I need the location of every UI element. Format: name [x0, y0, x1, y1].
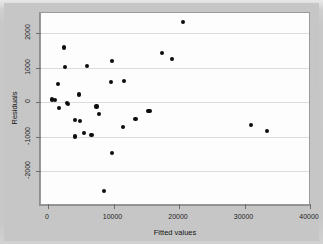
x-tick-mark: [310, 204, 311, 209]
data-point: [109, 80, 113, 84]
data-point: [102, 189, 106, 193]
data-point: [147, 109, 151, 113]
data-point: [89, 133, 93, 137]
data-point: [249, 123, 253, 127]
x-tick-mark: [48, 204, 49, 209]
data-point: [62, 45, 66, 49]
y-tick-mark: [36, 171, 41, 172]
data-point: [265, 129, 269, 133]
data-point: [82, 131, 86, 135]
data-point: [85, 64, 89, 68]
data-point: [66, 102, 70, 106]
y-tick-mark: [36, 68, 41, 69]
data-point: [94, 104, 98, 108]
x-axis-title: Fitted values: [154, 228, 197, 237]
gridline-y: [41, 33, 309, 34]
data-point: [56, 82, 60, 86]
plot-area: [40, 12, 310, 205]
data-point: [122, 79, 126, 83]
y-tick-label: 1000: [24, 59, 31, 75]
data-point: [121, 125, 125, 129]
data-point: [57, 106, 61, 110]
x-tick-mark: [114, 204, 115, 209]
data-point: [73, 118, 77, 122]
data-point: [77, 92, 81, 96]
x-tick-label: 30000: [234, 213, 253, 220]
x-axis-line: [40, 205, 311, 206]
y-tick-label: 2000: [24, 24, 31, 40]
data-point: [110, 151, 114, 155]
data-point: [78, 119, 82, 123]
y-tick-mark: [36, 33, 41, 34]
x-tick-mark: [179, 204, 180, 209]
data-point: [110, 59, 114, 63]
y-tick-label: -2000: [24, 161, 31, 179]
gridline-y: [41, 171, 309, 172]
x-tick-mark: [245, 204, 246, 209]
gridline-y: [41, 137, 309, 138]
y-axis-title: Residuals: [10, 92, 19, 125]
data-point: [170, 57, 174, 61]
y-tick-label: 0: [24, 99, 31, 103]
data-point: [133, 117, 137, 121]
x-tick-label: 40000: [299, 213, 318, 220]
data-point: [160, 51, 164, 55]
data-point: [97, 112, 101, 116]
gridline-y: [41, 102, 309, 103]
y-tick-mark: [36, 137, 41, 138]
data-point: [63, 65, 67, 69]
y-tick-label: -1000: [24, 127, 31, 145]
x-tick-label: 0: [45, 213, 49, 220]
x-tick-label: 10000: [103, 213, 122, 220]
x-tick-label: 20000: [168, 213, 187, 220]
gridline-y: [41, 68, 309, 69]
y-tick-mark: [36, 102, 41, 103]
data-point: [181, 20, 185, 24]
scatter-plot-figure: 200010000-1000-2000 01000020000300004000…: [0, 0, 323, 244]
data-point: [73, 134, 77, 138]
